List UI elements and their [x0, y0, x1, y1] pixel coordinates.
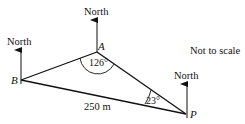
angle-label-p: 23° — [146, 95, 160, 106]
north-arrow-a: North — [84, 6, 109, 52]
side-label-bp: 250 m — [84, 101, 111, 112]
point-label-p: P — [189, 108, 197, 120]
north-label-p: North — [174, 70, 199, 81]
scale-note: Not to scale — [190, 45, 240, 56]
point-label-b: B — [11, 74, 18, 86]
point-label-a: A — [97, 40, 105, 52]
north-label-a: North — [84, 6, 109, 17]
north-label-b: North — [7, 36, 32, 47]
side-ba — [21, 52, 97, 80]
bearing-diagram: North North North A B P 126° 23° 250 m N… — [0, 0, 245, 124]
angle-label-a: 126° — [89, 57, 108, 68]
